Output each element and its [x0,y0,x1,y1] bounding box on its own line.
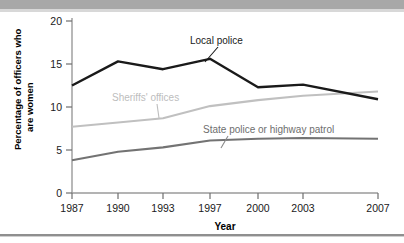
y-tick-label-0: 0 [56,187,62,199]
annotation-local-police: Local police [190,35,243,46]
bottom-gray-rule-shadow [0,236,404,237]
x-tick-label-2000: 2000 [246,202,270,214]
x-tick-label-1997: 1997 [198,202,222,214]
y-axis-ticks [66,21,72,193]
x-axis-ticks [72,193,378,199]
chart-figure: Percentage of officers who are women 0 5… [0,0,404,243]
y-axis-title-line2: are women [24,82,35,132]
leader-line-state-police [221,136,228,148]
line-chart-canvas: Percentage of officers who are women 0 5… [0,0,404,243]
y-tick-label-15: 15 [50,58,62,70]
annotation-sheriffs-offices: Sheriffs' offices [112,92,179,103]
y-tick-label-5: 5 [56,144,62,156]
x-tick-label-2003: 2003 [291,202,315,214]
x-tick-label-1987: 1987 [60,202,84,214]
y-axis-title-line1: Percentage of officers who [12,28,23,150]
x-axis-title: Year [214,221,235,232]
annotation-state-police: State police or highway patrol [203,124,334,135]
leader-line-sheriffs-offices [157,104,159,118]
y-tick-label-20: 20 [50,15,62,27]
x-tick-label-1990: 1990 [106,202,130,214]
x-tick-label-1993: 1993 [151,202,175,214]
x-tick-label-2007: 2007 [366,202,390,214]
y-tick-label-10: 10 [50,101,62,113]
